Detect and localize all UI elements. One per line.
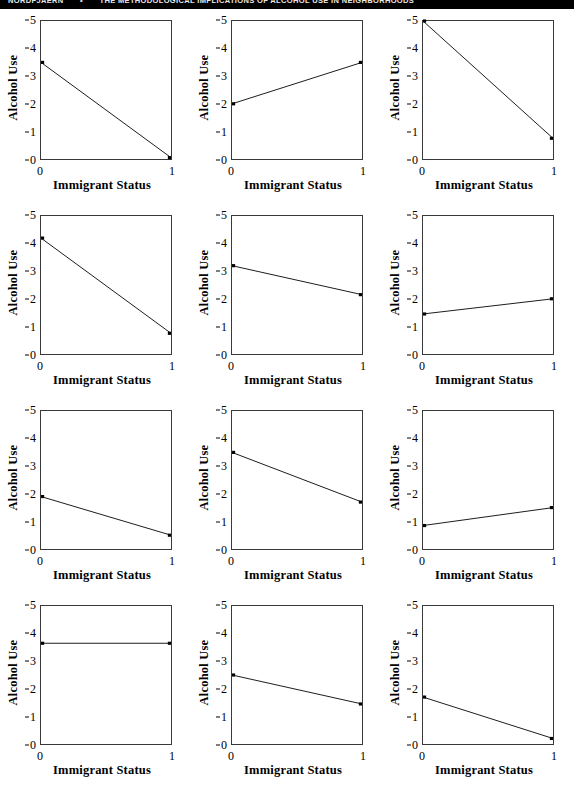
chart-panel: Alcohol Use01234501Immigrant Status <box>191 207 382 402</box>
y-axis-ticks: 012345 <box>22 410 36 550</box>
x-axis-title: Immigrant Status <box>213 763 373 778</box>
y-tick-mark <box>216 76 220 77</box>
y-tick-label: 4 <box>221 42 227 54</box>
y-tick-label: 4 <box>221 237 227 249</box>
y-axis-title: Alcohol Use <box>197 12 213 162</box>
data-point-marker <box>359 501 362 504</box>
series-plot <box>423 216 553 354</box>
y-tick-mark <box>25 271 29 272</box>
y-tick-label: 4 <box>30 627 36 639</box>
y-tick-mark <box>216 48 220 49</box>
y-tick-mark <box>25 717 29 718</box>
chart-panel: Alcohol Use01234501Immigrant Status <box>0 12 191 207</box>
y-tick-label: 5 <box>30 404 36 416</box>
x-tick-label: 0 <box>228 165 234 177</box>
y-tick-label: 4 <box>412 237 418 249</box>
y-tick-label: 5 <box>30 599 36 611</box>
y-axis-ticks: 012345 <box>213 20 227 160</box>
x-axis-ticks: 01 <box>40 747 172 763</box>
plot-area <box>40 215 172 355</box>
y-tick-label: 0 <box>221 154 227 166</box>
y-tick-mark <box>407 104 411 105</box>
y-tick-label: 5 <box>30 14 36 26</box>
y-tick-label: 4 <box>30 432 36 444</box>
y-tick-label: 3 <box>221 70 227 82</box>
y-tick-label: 2 <box>30 488 36 500</box>
y-tick-label: 0 <box>221 544 227 556</box>
y-tick-label: 2 <box>221 488 227 500</box>
y-tick-mark <box>216 327 220 328</box>
y-tick-mark <box>25 160 29 161</box>
y-tick-mark <box>407 215 411 216</box>
data-point-marker <box>41 495 44 498</box>
y-axis-ticks: 012345 <box>404 20 418 160</box>
trend-line <box>423 21 553 138</box>
y-tick-mark <box>25 355 29 356</box>
x-tick-label: 0 <box>228 360 234 372</box>
y-tick-mark <box>407 327 411 328</box>
chart-panel: Alcohol Use01234501Immigrant Status <box>382 207 573 402</box>
data-point-marker <box>423 19 426 22</box>
y-tick-label: 4 <box>221 432 227 444</box>
y-tick-mark <box>407 605 411 606</box>
x-tick-label: 1 <box>169 750 175 762</box>
y-tick-label: 0 <box>412 154 418 166</box>
y-tick-mark <box>25 522 29 523</box>
x-tick-label: 1 <box>360 360 366 372</box>
y-tick-label: 1 <box>412 126 418 138</box>
y-tick-label: 2 <box>412 683 418 695</box>
x-tick-label: 1 <box>169 555 175 567</box>
x-tick-label: 0 <box>37 555 43 567</box>
x-tick-label: 1 <box>169 360 175 372</box>
series-plot <box>232 411 362 549</box>
y-axis-title-text: Alcohol Use <box>7 444 22 510</box>
chart-panel: Alcohol Use01234501Immigrant Status <box>0 597 191 790</box>
y-tick-label: 1 <box>30 711 36 723</box>
y-tick-mark <box>25 76 29 77</box>
trend-line <box>232 675 362 704</box>
y-tick-mark <box>407 271 411 272</box>
y-tick-mark <box>216 466 220 467</box>
y-axis-title-text: Alcohol Use <box>198 639 213 705</box>
data-point-marker <box>359 293 362 296</box>
y-tick-mark <box>216 689 220 690</box>
y-tick-label: 4 <box>412 432 418 444</box>
x-tick-label: 0 <box>419 165 425 177</box>
y-tick-label: 3 <box>412 460 418 472</box>
y-axis-title-text: Alcohol Use <box>7 639 22 705</box>
y-axis-title: Alcohol Use <box>388 402 404 552</box>
x-tick-label: 1 <box>551 555 557 567</box>
data-point-marker <box>550 506 553 509</box>
plot-area <box>231 605 363 745</box>
y-tick-label: 5 <box>412 14 418 26</box>
small-multiples-grid: Alcohol Use01234501Immigrant StatusAlcoh… <box>0 12 574 790</box>
x-axis-ticks: 01 <box>422 552 554 568</box>
y-tick-mark <box>216 299 220 300</box>
y-tick-mark <box>25 132 29 133</box>
x-tick-label: 1 <box>551 165 557 177</box>
y-tick-label: 2 <box>30 98 36 110</box>
data-point-marker <box>41 61 44 64</box>
y-tick-mark <box>407 689 411 690</box>
y-tick-mark <box>407 550 411 551</box>
y-tick-mark <box>216 522 220 523</box>
y-axis-title-text: Alcohol Use <box>389 639 404 705</box>
y-tick-mark <box>216 215 220 216</box>
chart-panel: Alcohol Use01234501Immigrant Status <box>382 12 573 207</box>
y-tick-mark <box>25 104 29 105</box>
trend-line <box>41 497 171 536</box>
y-tick-label: 2 <box>412 293 418 305</box>
y-tick-mark <box>407 20 411 21</box>
data-point-marker <box>359 702 362 705</box>
y-tick-mark <box>407 243 411 244</box>
y-tick-mark <box>216 20 220 21</box>
y-tick-label: 5 <box>412 209 418 221</box>
data-point-marker <box>550 737 553 740</box>
chart-panel: Alcohol Use01234501Immigrant Status <box>382 597 573 790</box>
y-axis-title-text: Alcohol Use <box>389 249 404 315</box>
x-tick-label: 1 <box>551 360 557 372</box>
x-axis-title: Immigrant Status <box>404 763 564 778</box>
y-axis-title-text: Alcohol Use <box>389 54 404 120</box>
y-axis-title-text: Alcohol Use <box>198 54 213 120</box>
trend-line <box>41 62 171 157</box>
